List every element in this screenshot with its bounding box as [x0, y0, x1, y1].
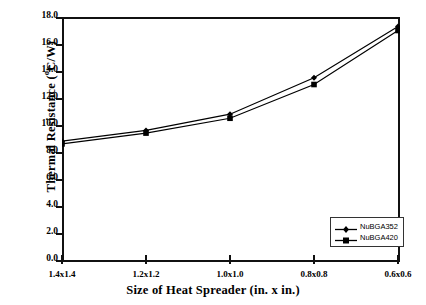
y-tick-label: 8.0 [46, 145, 58, 155]
chart-figure: Thermal Resistance (oC/W) 0.02.04.06.08.… [0, 0, 426, 305]
legend-box: NuBGA352 NuBGA420 [330, 217, 404, 247]
y-tick-label: 2.0 [46, 226, 58, 236]
y-tick-label: 12.0 [41, 91, 58, 101]
x-tick-label: 0.6x0.6 [385, 269, 412, 279]
square-marker-icon [227, 115, 233, 121]
y-tick-label: 10.0 [41, 118, 58, 128]
y-tick-label: 6.0 [46, 172, 58, 182]
legend-label-nubga352: NuBGA352 [358, 222, 398, 231]
legend-item-nubga420[interactable]: NuBGA420 [334, 232, 398, 243]
x-tick-label: 0.8x0.8 [301, 269, 328, 279]
y-tick-label: 4.0 [46, 199, 58, 209]
series-line [62, 31, 398, 144]
x-tick-label: 1.0x1.0 [217, 269, 244, 279]
legend-label-nubga420: NuBGA420 [358, 233, 398, 242]
plot-area: 0.02.04.06.08.010.012.014.016.018.0 1.4x… [62, 17, 400, 262]
series-line [62, 26, 398, 141]
square-marker-icon [311, 82, 317, 88]
legend-item-nubga352[interactable]: NuBGA352 [334, 221, 398, 232]
x-tick-label: 1.4x1.4 [49, 269, 76, 279]
series-nubga420 [62, 28, 400, 147]
y-tick-label: 16.0 [41, 37, 58, 47]
x-axis-title: Size of Heat Spreader (in. x in.) [0, 283, 426, 298]
x-tick-label: 1.2x1.2 [133, 269, 160, 279]
series-nubga352 [62, 23, 400, 144]
square-marker-icon [62, 141, 65, 147]
y-tick-label: 0.0 [46, 253, 58, 263]
y-tick-label: 18.0 [41, 10, 58, 20]
square-marker-icon [143, 130, 149, 136]
square-marker-icon [334, 232, 358, 243]
diamond-marker-icon [334, 221, 358, 232]
diamond-marker-icon [311, 75, 317, 81]
y-tick-label: 14.0 [41, 64, 58, 74]
square-marker-icon [395, 28, 400, 34]
